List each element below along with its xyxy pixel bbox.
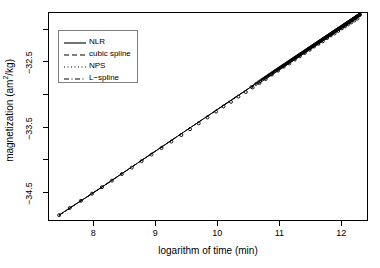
data-point (229, 100, 232, 103)
legend-item[interactable]: NLR (59, 35, 137, 47)
y-tick-label: −34.5 (24, 171, 34, 205)
data-point (189, 128, 192, 131)
chart-legend: NLRcubic splineNPSL−spline (58, 30, 138, 83)
chart-canvas (0, 0, 380, 268)
line-dotted-icon (63, 59, 87, 71)
y-tick-label: −33.5 (24, 106, 34, 140)
data-point (170, 140, 173, 143)
data-point (215, 110, 218, 113)
x-tick-label: 11 (275, 228, 284, 238)
legend-item[interactable]: L−spline (59, 71, 137, 83)
data-point (222, 105, 225, 108)
legend-label: cubic spline (89, 49, 131, 58)
data-point (150, 153, 153, 156)
data-point (244, 91, 247, 94)
y-axis-ticks (43, 30, 48, 193)
legend-item[interactable]: NPS (59, 59, 137, 71)
y-axis-title-text: magnetization (am2/kg) (2, 59, 15, 162)
y-axis-title-suffix: /kg) (5, 59, 16, 76)
data-point (140, 160, 143, 163)
data-point (160, 147, 163, 150)
x-tick-label: 12 (336, 228, 346, 238)
x-axis-ticks (94, 221, 342, 226)
y-axis-title: magnetization (am2/kg) (2, 0, 16, 221)
legend-label: NPS (89, 61, 105, 70)
line-dashed-icon (63, 47, 87, 59)
x-axis-title: logarithm of time (min) (48, 245, 368, 256)
x-tick-label: 10 (212, 228, 222, 238)
legend-item[interactable]: cubic spline (59, 47, 137, 59)
y-axis-title-superscript: 2 (2, 76, 9, 80)
line-solid-icon (63, 35, 87, 47)
legend-label: NLR (89, 37, 105, 46)
data-point (180, 134, 183, 137)
x-tick-label: 8 (91, 228, 96, 238)
data-point (197, 122, 200, 125)
legend-label: L−spline (89, 73, 119, 82)
y-axis-title-prefix: magnetization (am (5, 80, 16, 162)
line-dashdot-icon (63, 71, 87, 83)
y-tick-label: −32.5 (24, 40, 34, 74)
data-point (206, 116, 209, 119)
x-tick-label: 9 (153, 228, 158, 238)
data-point (237, 95, 240, 98)
chart-figure: 89101112 −32.5−33.5−34.5 logarithm of ti… (0, 0, 380, 268)
